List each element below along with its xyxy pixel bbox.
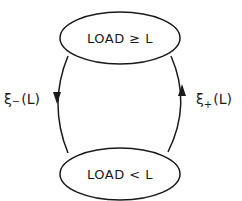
transition-label-right: ξ+(L) [196,91,232,110]
transition-left [53,56,68,153]
transition-right [168,56,186,152]
state-diagram: LOAD ≥ L LOAD < L ξ−(L) ξ+(L) [0,0,242,201]
xi-symbol-left: ξ [4,91,12,107]
arrow-down-icon [53,92,61,104]
transition-label-left: ξ−(L) [4,91,40,107]
transition-arc-left [58,56,68,153]
transition-arc-right [168,56,181,152]
arg-left: (L) [21,91,40,107]
xi-symbol-right: ξ [196,91,204,107]
subscript-minus: − [12,96,20,107]
state-load-ge-l: LOAD ≥ L [60,12,180,64]
arg-right: (L) [213,91,232,107]
state-label-top: LOAD ≥ L [87,31,153,46]
subscript-plus: + [204,99,212,110]
state-label-bottom: LOAD < L [87,167,153,182]
state-load-lt-l: LOAD < L [60,148,180,200]
